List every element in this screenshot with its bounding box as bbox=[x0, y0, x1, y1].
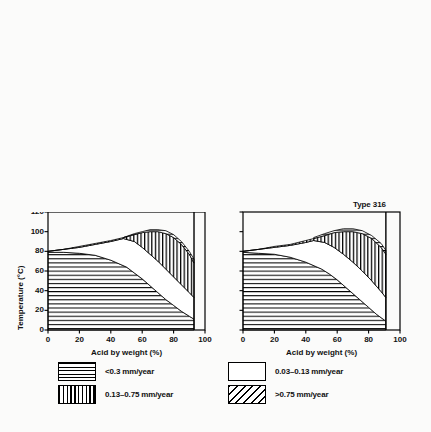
region-lt-0-3 bbox=[48, 252, 194, 330]
region-lt-0-3 bbox=[243, 252, 386, 330]
x-tick-label: 0 bbox=[34, 155, 62, 164]
x-tick-label: 60 bbox=[323, 155, 351, 164]
x-tick-label: 100 bbox=[191, 155, 219, 164]
legend-swatch-blank bbox=[228, 362, 266, 381]
x-tick-label: 80 bbox=[160, 155, 188, 164]
x-tick-label: 100 bbox=[386, 155, 414, 164]
legend-label: >0.75 mm/year bbox=[275, 390, 328, 399]
region-gt-0-75 bbox=[48, 32, 189, 70]
x-tick-label: 40 bbox=[292, 155, 320, 164]
legend-item-1: 0.03–0.13 mm/year bbox=[228, 362, 343, 381]
legend-swatch-horizontal-lines bbox=[58, 362, 96, 381]
x-tick-label: 100 bbox=[191, 335, 219, 344]
region-lt-0-3 bbox=[243, 71, 381, 150]
x-tick-label: 0 bbox=[229, 335, 257, 344]
x-tick-label: 0 bbox=[34, 335, 62, 344]
region-gt-0-75 bbox=[243, 32, 381, 70]
legend-label: <0.3 mm/year bbox=[105, 367, 154, 376]
chart-type-label-nitric-316: Type 316 bbox=[353, 200, 386, 209]
plot-frame bbox=[243, 32, 400, 150]
x-tick-label: 20 bbox=[65, 155, 93, 164]
x-tick-label: 20 bbox=[65, 335, 93, 344]
legend-label: 0.13–0.75 mm/year bbox=[105, 390, 173, 399]
y-axis-label: Temperature (°C) bbox=[16, 86, 25, 150]
region-0-03-0-13 bbox=[243, 241, 386, 322]
region-0-13-0-75 bbox=[48, 232, 194, 298]
region-0-13-0-75 bbox=[48, 32, 189, 93]
chart-title-phosphoric-304: Phosphoric acid bbox=[66, 20, 127, 29]
x-tick-label: 20 bbox=[260, 335, 288, 344]
x-tick-label: 60 bbox=[128, 335, 156, 344]
plot-frame bbox=[48, 212, 205, 330]
chart-type-label-phosphoric-316: Type 316 bbox=[353, 20, 386, 29]
x-tick-label: 60 bbox=[128, 155, 156, 164]
x-tick-label: 80 bbox=[355, 335, 383, 344]
y-tick-label: 100 bbox=[20, 47, 44, 56]
x-tick-label: 40 bbox=[292, 335, 320, 344]
region-0-13-0-75 bbox=[243, 32, 381, 106]
region-0-03-0-13 bbox=[48, 67, 189, 103]
x-tick-label: 80 bbox=[160, 335, 188, 344]
legend: <0.3 mm/year0.03–0.13 mm/year0.13–0.75 m… bbox=[0, 358, 431, 416]
region-0-03-0-13 bbox=[243, 69, 381, 118]
legend-swatch-diagonal-hatch bbox=[228, 385, 266, 404]
y-tick-label: 120 bbox=[20, 207, 44, 216]
region-0-13-0-75 bbox=[243, 232, 386, 298]
region-lt-0-3 bbox=[48, 71, 189, 150]
legend-item-3: >0.75 mm/year bbox=[228, 385, 328, 404]
y-tick-label: 120 bbox=[20, 27, 44, 36]
x-axis-label: Acid by weight (%) bbox=[38, 348, 215, 357]
legend-item-0: <0.3 mm/year bbox=[58, 362, 154, 381]
x-axis-label: Acid by weight (%) bbox=[233, 168, 410, 177]
y-tick-label: 80 bbox=[20, 66, 44, 75]
region-0-03-0-13 bbox=[48, 239, 194, 320]
x-axis-label: Acid by weight (%) bbox=[38, 168, 215, 177]
region-gt-0-75 bbox=[314, 229, 386, 255]
legend-swatch-vertical-lines bbox=[58, 385, 96, 404]
x-tick-label: 20 bbox=[260, 155, 288, 164]
x-axis-label: Acid by weight (%) bbox=[233, 348, 410, 357]
plot-frame bbox=[243, 212, 400, 330]
legend-label: 0.03–0.13 mm/year bbox=[275, 367, 343, 376]
x-tick-label: 80 bbox=[355, 155, 383, 164]
chart-title-nitric-304: Nitric Acid bbox=[66, 200, 105, 209]
y-tick-label: 100 bbox=[20, 227, 44, 236]
y-tick-label: 80 bbox=[20, 246, 44, 255]
plot-frame bbox=[48, 32, 205, 150]
region-gt-0-75 bbox=[123, 230, 194, 263]
chart-type-label-nitric-304: Type 304 bbox=[158, 200, 191, 209]
x-tick-label: 100 bbox=[386, 335, 414, 344]
y-axis-label: Temperature (°C) bbox=[16, 266, 25, 330]
chart-type-label-phosphoric-304: Type 304 bbox=[158, 20, 191, 29]
x-tick-label: 40 bbox=[97, 155, 125, 164]
x-tick-label: 0 bbox=[229, 155, 257, 164]
x-tick-label: 60 bbox=[323, 335, 351, 344]
legend-item-2: 0.13–0.75 mm/year bbox=[58, 385, 173, 404]
x-tick-label: 40 bbox=[97, 335, 125, 344]
